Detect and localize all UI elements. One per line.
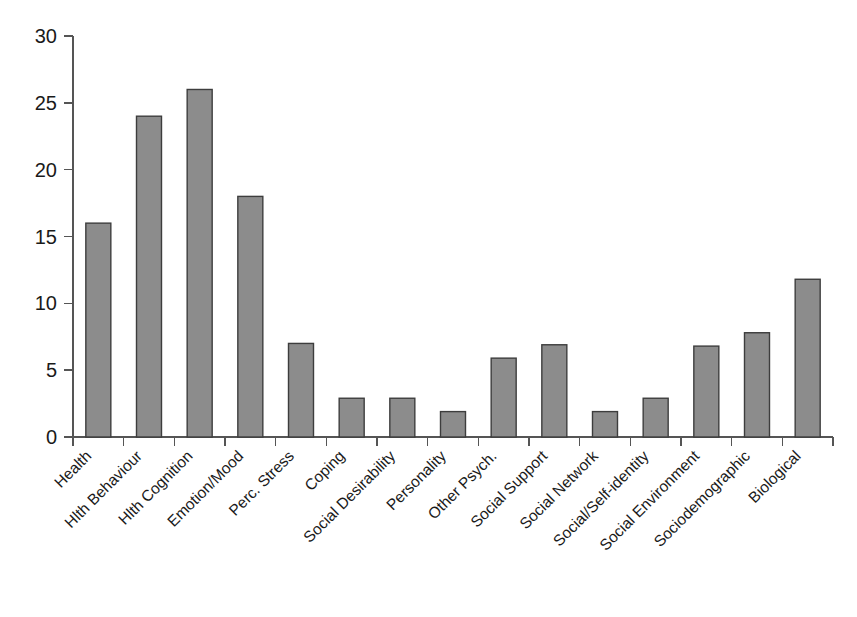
bar: Emotion/Mood: 18 (238, 196, 263, 437)
y-tick-label: 25 (35, 92, 57, 114)
bar: Social/Self-identity: 2.9 (643, 398, 668, 437)
y-tick-label: 10 (35, 292, 57, 314)
y-tick-label: 0 (46, 426, 57, 448)
bar: Other Psych.: 5.9 (491, 358, 516, 437)
bar-chart-figure: 051015202530 Health: 16Hlth Behaviour: 2… (0, 0, 857, 617)
bar: Coping: 2.9 (339, 398, 364, 437)
bar: Hlth Behaviour: 24 (137, 116, 162, 437)
bar: Perc. Stress: 7 (289, 343, 314, 437)
y-tick-label: 30 (35, 25, 57, 47)
bar: Social Environment: 6.8 (694, 346, 719, 437)
bar: Health: 16 (86, 223, 111, 437)
bar: Social Desirability: 2.9 (390, 398, 415, 437)
y-tick-label: 15 (35, 226, 57, 248)
bar: Social Network: 1.9 (593, 412, 618, 437)
bar: Hlth Cognition: 26 (187, 89, 212, 437)
bar: Biological: 11.8 (795, 279, 820, 437)
chart-canvas: 051015202530 Health: 16Hlth Behaviour: 2… (0, 0, 857, 617)
y-tick-label: 20 (35, 159, 57, 181)
bar: Sociodemographic: 7.8 (745, 333, 770, 437)
y-tick-label: 5 (46, 359, 57, 381)
bar: Social Support: 6.9 (542, 345, 567, 437)
bar: Personality: 1.9 (441, 412, 466, 437)
